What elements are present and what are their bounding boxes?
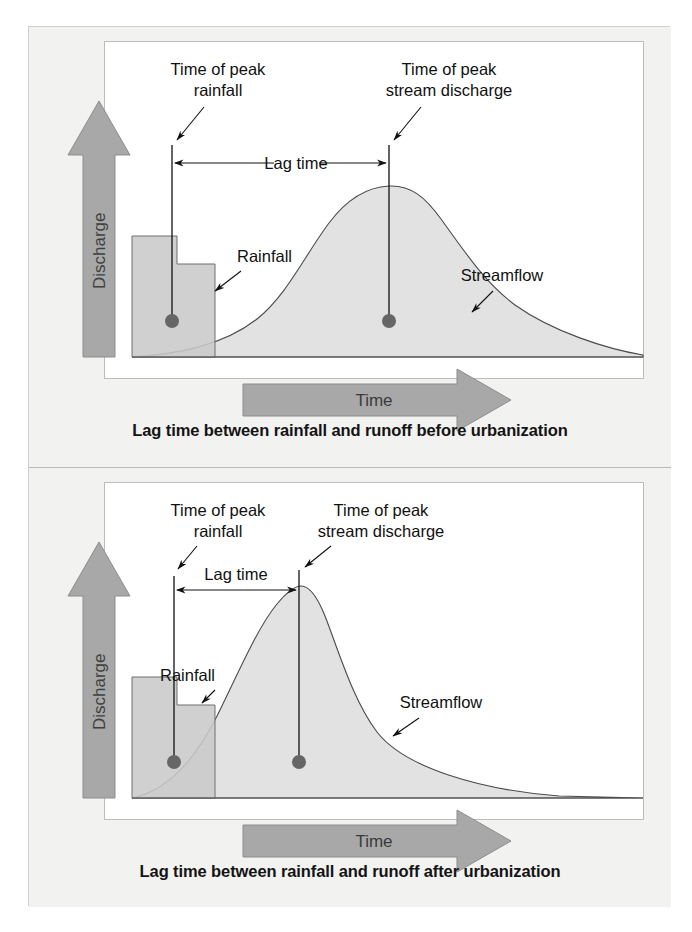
peak-rainfall-marker-after — [167, 755, 181, 769]
peak-discharge-annotation-before: Time of peak stream discharge — [386, 60, 513, 140]
peak-rainfall-annotation-before: Time of peak rainfall — [171, 60, 267, 140]
lag-time-arrow-before: Lag time — [175, 154, 386, 172]
discharge-axis-label-after: Discharge — [90, 653, 109, 730]
peak-discharge-label-line1-before: Time of peak — [402, 60, 498, 78]
peak-rainfall-annotation-after: Time of peak rainfall — [171, 501, 267, 569]
plot-graphics-before: Discharge Lag time — [29, 27, 671, 467]
streamflow-label-after: Streamflow — [400, 693, 483, 711]
caption-after-urbanization: Lag time between rainfall and runoff aft… — [29, 862, 671, 881]
peak-rainfall-label-line1-before: Time of peak — [171, 60, 267, 78]
discharge-axis-label-before: Discharge — [90, 212, 109, 289]
peak-rainfall-label-line2-after: rainfall — [194, 522, 243, 540]
peak-discharge-label-line2-after: stream discharge — [318, 522, 445, 540]
peak-rainfall-label-line2-before: rainfall — [194, 81, 243, 99]
panel-before-urbanization: Discharge Lag time — [29, 27, 671, 467]
figure-page: Discharge Lag time — [0, 0, 692, 932]
time-axis-label-after: Time — [355, 832, 392, 851]
peak-discharge-label-line2-before: stream discharge — [386, 81, 513, 99]
streamflow-label-before: Streamflow — [461, 266, 544, 284]
plot-graphics-after: Discharge Lag time — [29, 468, 671, 908]
time-axis-label-before: Time — [355, 391, 392, 410]
peak-discharge-marker-after — [292, 755, 306, 769]
discharge-axis-arrow-before: Discharge — [68, 101, 130, 357]
panel-after-urbanization: Discharge Lag time — [29, 467, 671, 907]
rainfall-label-before: Rainfall — [237, 247, 292, 265]
peak-discharge-marker-before — [382, 314, 396, 328]
caption-before-urbanization: Lag time between rainfall and runoff bef… — [29, 421, 671, 440]
peak-rainfall-label-line1-after: Time of peak — [171, 501, 267, 519]
lag-time-label-before: Lag time — [264, 154, 327, 172]
peak-discharge-label-line1-after: Time of peak — [334, 501, 430, 519]
lag-time-arrow-after: Lag time — [177, 565, 296, 590]
figure-frame: Discharge Lag time — [28, 26, 670, 906]
rainfall-label-after: Rainfall — [160, 666, 215, 684]
rainfall-annotation-before: Rainfall — [215, 247, 292, 291]
peak-discharge-annotation-after: Time of peak stream discharge — [305, 501, 444, 567]
rainfall-bars-before — [132, 236, 215, 357]
streamflow-annotation-after: Streamflow — [393, 693, 482, 736]
discharge-axis-arrow-after: Discharge — [68, 542, 130, 798]
lag-time-label-after: Lag time — [204, 565, 267, 583]
peak-rainfall-marker-before — [165, 314, 179, 328]
